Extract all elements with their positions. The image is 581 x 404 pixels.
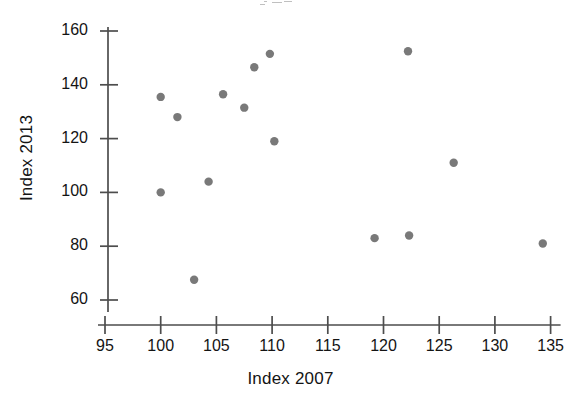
axis-lines	[98, 27, 561, 325]
data-point	[219, 90, 227, 98]
tick-marks	[100, 31, 551, 334]
data-point	[157, 93, 165, 101]
x-tick-label: 130	[475, 337, 515, 355]
data-point	[190, 276, 198, 284]
data-point	[266, 50, 274, 58]
data-point	[204, 177, 212, 185]
x-tick-label: 105	[196, 337, 236, 355]
x-axis-title: Index 2007	[0, 369, 581, 389]
data-point	[449, 159, 457, 167]
data-point	[270, 137, 278, 145]
y-tick-label: 80	[48, 236, 88, 254]
y-tick-label: 100	[48, 182, 88, 200]
data-point	[405, 231, 413, 239]
y-axis-title: Index 2013	[17, 98, 37, 218]
data-point	[370, 234, 378, 242]
y-tick-label: 140	[48, 75, 88, 93]
x-tick-label: 100	[141, 337, 181, 355]
x-tick-label: 120	[364, 337, 404, 355]
x-tick-label: 125	[419, 337, 459, 355]
x-tick-label: 110	[252, 337, 292, 355]
data-point	[157, 188, 165, 196]
y-tick-label: 120	[48, 129, 88, 147]
data-point	[240, 103, 248, 111]
data-point	[539, 239, 547, 247]
x-tick-label: 95	[85, 337, 125, 355]
y-tick-label: 60	[48, 290, 88, 308]
x-tick-label: 115	[308, 337, 348, 355]
data-point	[250, 63, 258, 71]
data-point	[404, 47, 412, 55]
data-point-group	[157, 47, 548, 284]
scatter-plot-figure: 6080100120140160951001051101151201251301…	[0, 0, 581, 404]
x-tick-label: 135	[531, 337, 571, 355]
data-point	[173, 113, 181, 121]
y-tick-label: 160	[48, 21, 88, 39]
